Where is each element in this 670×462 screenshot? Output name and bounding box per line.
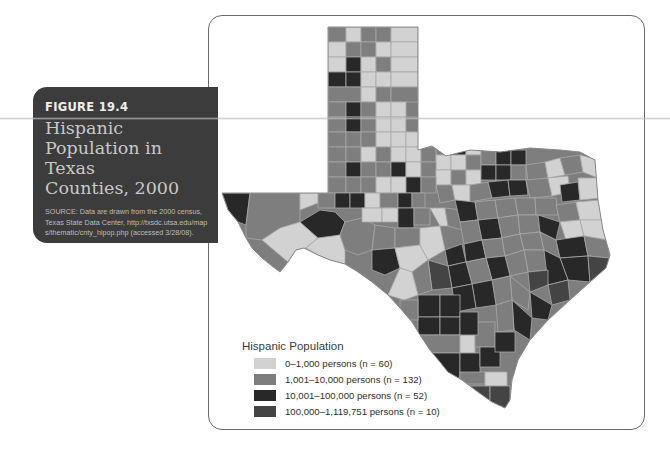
legend-item: 0–1,000 persons (n = 60): [242, 355, 440, 371]
legend-label: 100,000–1,119,751 persons (n = 10): [285, 406, 440, 417]
map-legend: Hispanic Population 0–1,000 persons (n =…: [242, 340, 440, 419]
figure-title-line: Population in Texas: [45, 138, 208, 178]
figure-title: Hispanic Population in Texas Counties, 2…: [45, 118, 208, 198]
figure-number: FIGURE 19.4: [45, 100, 208, 114]
legend-swatch-medium: [254, 374, 276, 385]
legend-item: 100,000–1,119,751 persons (n = 10): [242, 403, 440, 419]
legend-swatch-dark: [254, 406, 276, 417]
legend-item: 1,001–10,000 persons (n = 132): [242, 371, 440, 387]
figure-source-note: SOURCE: Data are drawn from the 2000 cen…: [45, 207, 208, 239]
legend-title: Hispanic Population: [242, 340, 440, 352]
legend-item: 10,001–100,000 persons (n = 52): [242, 387, 440, 403]
figure-title-line: Hispanic: [45, 118, 208, 138]
legend-label: 1,001–10,000 persons (n = 132): [285, 374, 422, 385]
figure-caption-box: FIGURE 19.4 Hispanic Population in Texas…: [33, 87, 218, 243]
legend-swatch-darkest: [254, 390, 276, 401]
legend-swatch-lightest: [254, 358, 276, 369]
legend-label: 0–1,000 persons (n = 60): [285, 358, 392, 369]
figure-title-line: Counties, 2000: [45, 178, 208, 198]
legend-label: 10,001–100,000 persons (n = 52): [285, 390, 427, 401]
